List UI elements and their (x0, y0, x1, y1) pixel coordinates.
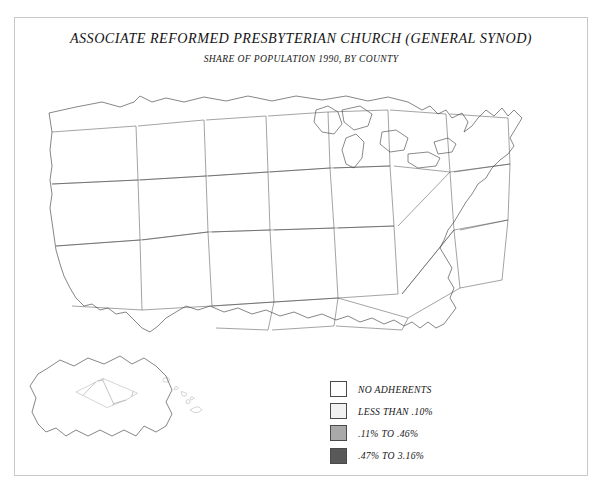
state-boundary (270, 168, 334, 230)
state-boundary (52, 126, 138, 184)
legend-item-47-to-316: .47% TO 3.16% (330, 445, 433, 467)
state-boundary (206, 116, 268, 176)
legend-swatch-47-to-316 (330, 448, 347, 464)
county-hawaii (190, 407, 202, 413)
county-hawaii (163, 378, 170, 382)
legend-item-less-than-10: LESS THAN .10% (330, 400, 433, 422)
legend-swatch-less-than-10 (330, 403, 347, 419)
us-county-choropleth-svg (16, 80, 586, 470)
county-hawaii (174, 387, 178, 390)
great-lake (380, 130, 408, 152)
state-boundary (338, 226, 398, 298)
state-boundary (274, 228, 338, 302)
state-boundary (212, 230, 274, 306)
state-boundary (336, 298, 408, 330)
state-boundary (460, 220, 508, 288)
legend-label-no-adherents: NO ADHERENTS (358, 384, 432, 395)
legend-label-less-than-10: LESS THAN .10% (358, 406, 433, 417)
state-boundary (208, 172, 270, 232)
state-boundary (140, 176, 208, 240)
state-boundary (272, 298, 338, 330)
legend-label-11-to-46: .11% TO .46% (358, 428, 418, 439)
great-lake (342, 106, 372, 130)
legend-item-no-adherents: NO ADHERENTS (330, 378, 433, 400)
state-boundary (402, 230, 460, 318)
county-hawaii (181, 392, 187, 397)
county-hawaii (190, 397, 194, 400)
great-lake (408, 152, 440, 168)
state-boundary (398, 172, 454, 294)
state-boundary (138, 120, 206, 180)
state-boundary (142, 232, 212, 310)
legend-swatch-no-adherents (330, 381, 347, 397)
national-outline (49, 96, 522, 332)
legend-swatch-11-to-46 (330, 425, 347, 441)
state-boundary (454, 164, 510, 230)
legend-label-47-to-316: .47% TO 3.16% (358, 450, 424, 461)
state-boundary (450, 114, 510, 172)
county-hawaii (186, 400, 190, 404)
choropleth-map (16, 80, 586, 470)
state-boundary (56, 240, 142, 310)
state-boundary (212, 302, 274, 330)
great-lake (342, 134, 364, 168)
county-mesh (30, 96, 522, 436)
great-lake (434, 138, 456, 154)
state-boundary (52, 180, 140, 246)
map-legend: NO ADHERENTS LESS THAN .10% .11% TO .46%… (330, 378, 433, 467)
map-page: ASSOCIATE REFORMED PRESBYTERIAN CHURCH (… (0, 0, 600, 495)
legend-item-11-to-46: .11% TO .46% (330, 422, 433, 444)
state-boundary (334, 166, 394, 228)
